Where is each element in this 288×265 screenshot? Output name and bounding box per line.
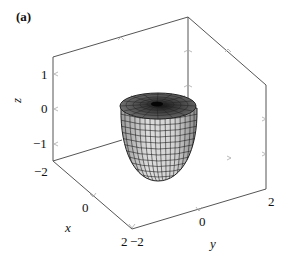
y-tick-label-2: 2 — [268, 195, 275, 208]
x-tick-label-neg2: −2 — [34, 165, 48, 178]
y-tick-label-0: 0 — [199, 215, 206, 228]
z-tick-label-1: 1 — [41, 68, 48, 81]
x-tick-label-0: 0 — [82, 201, 89, 214]
z-axis-label: z — [10, 98, 23, 103]
z-tick-label-0: 0 — [41, 102, 48, 115]
panel-label: (a) — [16, 10, 31, 23]
y-tick-label-neg2: −2 — [130, 235, 144, 248]
x-axis-label: x — [65, 221, 71, 234]
x-tick-label-2: 2 — [121, 235, 128, 248]
y-axis-label: y — [210, 237, 216, 250]
z-tick-label-neg1: −1 — [33, 137, 47, 150]
surface-mesh — [120, 93, 198, 181]
3d-surface-plot — [0, 0, 288, 265]
